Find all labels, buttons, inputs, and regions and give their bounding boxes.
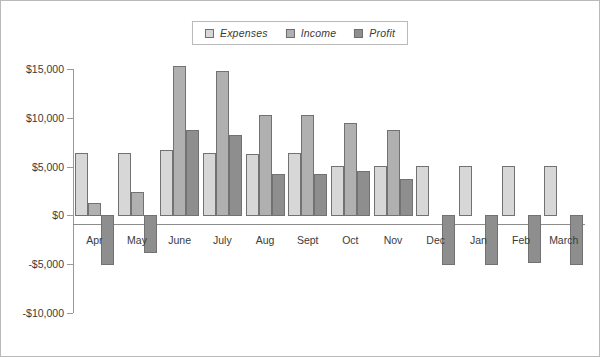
bar-group: Dec [414, 61, 457, 313]
bar-group-bars [116, 61, 159, 313]
bar-group: Apr [73, 61, 116, 313]
bar-group-bars [457, 61, 500, 313]
legend-item[interactable]: Profit [354, 27, 395, 39]
legend-item-label: Expenses [220, 27, 268, 39]
legend-item[interactable]: Income [286, 27, 337, 39]
x-axis-tick-label: Jan [457, 234, 500, 246]
bar-profit[interactable] [229, 135, 242, 216]
x-axis-tick-label: Nov [372, 234, 415, 246]
y-axis-tick [67, 313, 73, 314]
bar-group: May [116, 61, 159, 313]
x-axis-tick-label: Oct [329, 234, 372, 246]
bar-profit[interactable] [357, 171, 370, 216]
y-axis-tick-label: -$10,000 [23, 307, 64, 319]
bar-group: Nov [372, 61, 415, 313]
x-axis-tick-label: March [542, 234, 585, 246]
bar-group-bars [201, 61, 244, 313]
bar-chart: ExpensesIncomeProfit $15,000$10,000$5,00… [0, 0, 600, 357]
x-axis-tick-label: Aug [244, 234, 287, 246]
legend-item[interactable]: Expenses [205, 27, 268, 39]
bar-group-bars [244, 61, 287, 313]
bar-group-bars [329, 61, 372, 313]
x-axis-tick-label: May [116, 234, 159, 246]
bar-expenses[interactable] [331, 166, 344, 217]
bar-group: Sept [286, 61, 329, 313]
bar-group: July [201, 61, 244, 313]
bar-expenses[interactable] [459, 166, 472, 217]
bar-group-bars [372, 61, 415, 313]
bar-income[interactable] [259, 115, 272, 217]
bar-group-bars [542, 61, 585, 313]
bar-profit[interactable] [186, 130, 199, 217]
x-axis-tick-label: Dec [414, 234, 457, 246]
bar-group-bars [286, 61, 329, 313]
legend-swatch-icon [286, 29, 295, 38]
bar-group-bars [158, 61, 201, 313]
bar-profit[interactable] [400, 179, 413, 216]
bar-group: Aug [244, 61, 287, 313]
legend-item-label: Profit [369, 27, 395, 39]
bar-group-bars [414, 61, 457, 313]
bar-income[interactable] [387, 130, 400, 217]
bar-expenses[interactable] [75, 153, 88, 216]
y-axis-tick-label: $5,000 [32, 161, 64, 173]
bar-expenses[interactable] [502, 166, 515, 217]
legend-swatch-icon [205, 29, 214, 38]
bar-group: Oct [329, 61, 372, 313]
y-axis-tick-label: $15,000 [26, 63, 64, 75]
x-axis-tick-label: June [158, 234, 201, 246]
bar-expenses[interactable] [203, 153, 216, 216]
x-axis-tick-label: Feb [500, 234, 543, 246]
legend-swatch-icon [354, 29, 363, 38]
bar-group-bars [500, 61, 543, 313]
bar-expenses[interactable] [544, 166, 557, 217]
bar-profit[interactable] [314, 174, 327, 216]
y-axis-tick-label: $10,000 [26, 112, 64, 124]
bar-expenses[interactable] [374, 166, 387, 217]
x-axis-tick-label: Apr [73, 234, 116, 246]
bar-group: Feb [500, 61, 543, 313]
bar-income[interactable] [173, 66, 186, 217]
bar-groups: AprMayJuneJulyAugSeptOctNovDecJanFebMarc… [73, 61, 585, 313]
y-axis-tick-label: $0 [52, 209, 64, 221]
bar-group-bars [73, 61, 116, 313]
bar-profit[interactable] [272, 174, 285, 216]
x-axis-tick-label: July [201, 234, 244, 246]
bar-income[interactable] [301, 115, 314, 217]
x-axis-tick-label: Sept [286, 234, 329, 246]
bar-expenses[interactable] [118, 153, 131, 216]
bar-expenses[interactable] [416, 166, 429, 217]
bar-group: June [158, 61, 201, 313]
y-axis-tick-label: -$5,000 [28, 258, 64, 270]
bar-expenses[interactable] [246, 154, 259, 216]
bar-income[interactable] [344, 123, 357, 217]
legend-item-label: Income [301, 27, 337, 39]
bar-group: Jan [457, 61, 500, 313]
bar-income[interactable] [131, 192, 144, 216]
chart-legend: ExpensesIncomeProfit [192, 21, 408, 45]
bar-expenses[interactable] [288, 153, 301, 216]
bar-expenses[interactable] [160, 150, 173, 216]
bar-income[interactable] [216, 71, 229, 216]
plot-area: $15,000$10,000$5,000$0-$5,000-$10,000 Ap… [73, 61, 585, 313]
bar-income[interactable] [88, 203, 101, 217]
bar-group: March [542, 61, 585, 313]
